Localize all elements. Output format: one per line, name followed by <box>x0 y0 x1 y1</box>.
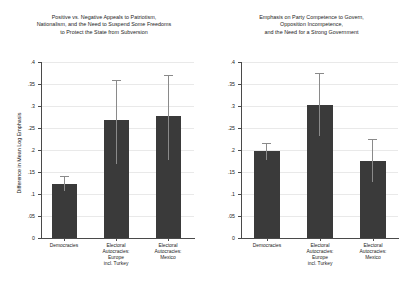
y-tick-mark-left-8 <box>38 62 41 63</box>
panel-right-title: Emphasis on Party Competence to Govern, … <box>208 14 415 36</box>
panel-left-title: Positive vs. Negative Appeals to Patriot… <box>0 14 208 36</box>
panel-left-title-line-1: Positive vs. Negative Appeals to Patriot… <box>0 14 208 21</box>
y-tick-mark-right-7 <box>238 84 241 85</box>
y-tick-mark-left-0 <box>38 238 41 239</box>
y-tick-label-left-8: .4 <box>21 59 35 65</box>
y-tick-label-right-1: .05 <box>221 213 235 219</box>
plot-area-left <box>42 62 194 238</box>
gridline-left-0.40 <box>42 62 194 63</box>
error-bar-left-electoral-autocracies-mexico <box>168 76 169 160</box>
y-tick-label-right-5: .25 <box>221 125 235 131</box>
x-category-label-right-ea-europe: Electoral Autocracies: Europe incl. Turk… <box>292 243 348 267</box>
bar-right-electoral-autocracies-mexico <box>360 161 386 238</box>
error-cap-top-right-electoral-autocracies-europe <box>315 73 324 74</box>
error-bar-right-electoral-autocracies-europe <box>319 74 320 136</box>
x-tick-mark-right-0 <box>267 238 268 241</box>
panel-left-title-line-2: Nationalism, and the Need to Suspend Som… <box>0 21 208 28</box>
x-category-label-right-democracies: Democracies <box>239 243 295 249</box>
x-category-label-left-democracies: Democracies <box>36 243 92 249</box>
gridline-right-0.35 <box>242 84 398 85</box>
y-tick-mark-left-3 <box>38 172 41 173</box>
y-tick-mark-right-3 <box>238 172 241 173</box>
y-tick-label-left-7: .35 <box>21 81 35 87</box>
error-bar-right-democracies <box>266 144 267 160</box>
x-category-label-right-ea-mexico: Electoral Autocracies: Mexico <box>345 243 401 261</box>
error-bar-right-electoral-autocracies-mexico <box>372 140 373 182</box>
plot-area-right <box>242 62 398 238</box>
y-tick-mark-right-5 <box>238 128 241 129</box>
error-cap-top-left-electoral-autocracies-europe <box>112 80 121 81</box>
x-category-label-left-ea-mexico: Electoral Autocracies: Mexico <box>140 243 196 261</box>
error-cap-top-right-democracies <box>262 143 271 144</box>
y-tick-label-right-8: .4 <box>221 59 235 65</box>
y-tick-label-left-5: .25 <box>21 125 35 131</box>
y-tick-label-left-0: 0 <box>21 235 35 241</box>
y-tick-mark-left-4 <box>38 150 41 151</box>
panel-right-title-line-1: Emphasis on Party Competence to Govern, <box>208 14 415 21</box>
gridline-left-0.35 <box>42 84 194 85</box>
y-tick-mark-left-7 <box>38 84 41 85</box>
x-cat-left-0-line-0: Democracies <box>36 243 92 249</box>
chart-panel-right: Emphasis on Party Competence to Govern, … <box>208 0 415 283</box>
y-tick-label-right-4: .2 <box>221 147 235 153</box>
y-tick-mark-left-6 <box>38 106 41 107</box>
error-cap-top-right-electoral-autocracies-mexico <box>368 139 377 140</box>
x-cat-left-2-line-2: Mexico <box>140 255 196 261</box>
y-tick-label-left-3: .15 <box>21 169 35 175</box>
error-cap-top-left-democracies <box>60 176 69 177</box>
y-tick-mark-right-1 <box>238 216 241 217</box>
y-tick-label-right-2: .1 <box>221 191 235 197</box>
figure-bar-chart-pair: Positive vs. Negative Appeals to Patriot… <box>0 0 415 283</box>
y-tick-label-left-6: .3 <box>21 103 35 109</box>
y-tick-mark-left-2 <box>38 194 41 195</box>
y-tick-label-right-3: .15 <box>221 169 235 175</box>
y-tick-label-right-6: .3 <box>221 103 235 109</box>
bar-right-electoral-autocracies-europe <box>307 105 333 238</box>
y-tick-mark-right-2 <box>238 194 241 195</box>
error-cap-top-left-electoral-autocracies-mexico <box>164 75 173 76</box>
x-cat-right-0-line-0: Democracies <box>239 243 295 249</box>
y-tick-label-left-4: .2 <box>21 147 35 153</box>
bar-left-democracies <box>52 184 77 238</box>
panel-right-title-line-2: Opposition Incompetence, <box>208 21 415 28</box>
y-tick-mark-left-5 <box>38 128 41 129</box>
x-cat-right-1-line-3: incl. Turkey <box>292 261 348 267</box>
error-bar-left-democracies <box>64 177 65 191</box>
x-tick-mark-left-2 <box>168 238 169 241</box>
gridline-left-0.30 <box>42 106 194 107</box>
bar-right-democracies <box>254 151 280 238</box>
chart-panel-left: Positive vs. Negative Appeals to Patriot… <box>0 0 208 283</box>
x-tick-mark-right-1 <box>320 238 321 241</box>
x-cat-right-2-line-2: Mexico <box>345 255 401 261</box>
x-category-label-left-ea-europe: Electoral Autocracies: Europe incl. Turk… <box>88 243 144 267</box>
error-bar-left-electoral-autocracies-europe <box>116 81 117 165</box>
y-tick-label-right-0: 0 <box>221 235 235 241</box>
y-tick-mark-right-6 <box>238 106 241 107</box>
panel-right-title-line-3: and the Need for a Strong Government <box>208 29 415 36</box>
y-tick-mark-right-8 <box>238 62 241 63</box>
y-tick-label-left-2: .1 <box>21 191 35 197</box>
panel-left-title-line-3: to Protect the State from Subversion <box>0 29 208 36</box>
x-tick-mark-right-2 <box>373 238 374 241</box>
x-tick-mark-left-0 <box>64 238 65 241</box>
y-tick-mark-right-0 <box>238 238 241 239</box>
y-tick-label-left-1: .05 <box>21 213 35 219</box>
gridline-right-0.40 <box>242 62 398 63</box>
y-tick-mark-right-4 <box>238 150 241 151</box>
y-tick-mark-left-1 <box>38 216 41 217</box>
x-cat-left-1-line-3: incl. Turkey <box>88 261 144 267</box>
x-tick-mark-left-1 <box>116 238 117 241</box>
y-tick-label-right-7: .35 <box>221 81 235 87</box>
